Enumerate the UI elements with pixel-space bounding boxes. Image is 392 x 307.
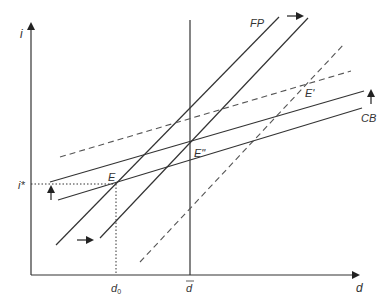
cb-label: CB	[361, 112, 376, 124]
point-e-prime-label: E'	[305, 87, 315, 99]
point-e-double-prime-label: E"	[194, 147, 206, 159]
x-axis-label: d	[356, 281, 363, 295]
fp-label: FP	[250, 17, 265, 29]
y-axis-label: i	[20, 27, 23, 41]
i-star-label: i*	[18, 179, 25, 191]
fp-line-dashed	[140, 43, 345, 262]
d0-label: d0	[111, 282, 121, 295]
point-e-label: E	[108, 171, 116, 183]
fp-line-initial	[56, 17, 279, 245]
cb-line-dashed	[60, 71, 351, 157]
fp-line-shifted	[100, 18, 308, 238]
d-bar-label: d	[186, 282, 193, 294]
cb-line-upper	[50, 91, 364, 182]
fp-cb-diagram: i d i* d0 d FP CB E E' E"	[0, 0, 392, 307]
